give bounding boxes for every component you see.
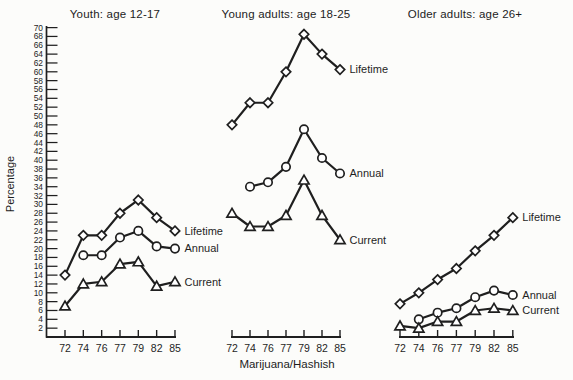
diamond-marker: [60, 270, 69, 279]
y-tick-label: 38: [34, 164, 44, 174]
y-tick-label: 28: [34, 208, 44, 218]
y-tick-label: 32: [34, 191, 44, 201]
y-tick-label: 10: [34, 288, 44, 298]
circle-marker: [79, 251, 87, 259]
diamond-marker: [79, 231, 88, 240]
series-label-lifetime: Lifetime: [184, 225, 223, 237]
triangle-marker: [317, 211, 327, 220]
diamond-marker: [281, 67, 290, 76]
triangle-marker: [227, 208, 237, 217]
y-tick-label: 4: [38, 314, 43, 324]
series-line-lifetime: [232, 34, 340, 125]
y-tick-label: 12: [34, 279, 44, 289]
prevalence-trend-figure: Percentage Youth: age 12-17 Young adults…: [0, 0, 573, 380]
x-tick-label: 77: [280, 342, 292, 354]
circle-marker: [282, 163, 290, 171]
series-label-lifetime: Lifetime: [522, 211, 561, 223]
circle-marker: [134, 227, 142, 235]
circle-marker: [300, 125, 308, 133]
x-tick-label: 77: [114, 342, 126, 354]
circle-marker: [336, 169, 344, 177]
series-label-annual: Annual: [350, 167, 384, 179]
y-tick-label: 40: [34, 155, 44, 165]
circle-marker: [471, 293, 479, 301]
circle-marker: [116, 233, 124, 241]
circle-marker: [171, 244, 179, 252]
triangle-marker: [299, 175, 309, 184]
y-tick-label: 44: [34, 138, 44, 148]
y-tick-label: 14: [34, 270, 44, 280]
y-tick-label: 2: [38, 323, 43, 333]
y-tick-label: 34: [34, 182, 44, 192]
circle-marker: [152, 242, 160, 250]
y-tick-label: 48: [34, 120, 44, 130]
x-tick-label: 72: [226, 342, 238, 354]
triangle-marker: [281, 211, 291, 220]
x-tick-label: 72: [394, 342, 406, 354]
series-label-current: Current: [350, 234, 387, 246]
x-tick-label: 82: [316, 342, 328, 354]
circle-marker: [509, 291, 517, 299]
series-label-current: Current: [184, 276, 221, 288]
series-label-current: Current: [522, 304, 559, 316]
y-tick-label: 64: [34, 49, 44, 59]
x-tick-label: 82: [151, 342, 163, 354]
x-tick-label: 85: [169, 342, 181, 354]
x-tick-label: 76: [262, 342, 274, 354]
circle-marker: [97, 251, 105, 259]
x-tick-label: 74: [77, 342, 89, 354]
y-tick-label: 22: [34, 235, 44, 245]
y-tick-label: 58: [34, 76, 44, 86]
circle-marker: [318, 154, 326, 162]
y-tick-label: 66: [34, 40, 44, 50]
circle-marker: [264, 178, 272, 186]
y-tick-label: 52: [34, 102, 44, 112]
y-tick-label: 26: [34, 217, 44, 227]
x-tick-label: 72: [59, 342, 71, 354]
x-tick-label: 76: [96, 342, 108, 354]
y-tick-label: 46: [34, 129, 44, 139]
y-tick-label: 60: [34, 67, 44, 77]
y-tick-label: 24: [34, 226, 44, 236]
chart-canvas: 2468101214161820222426283032343638404244…: [0, 0, 573, 380]
y-tick-label: 54: [34, 93, 44, 103]
x-axis-title: Marijuana/Hashish: [239, 358, 334, 370]
y-tick-label: 20: [34, 244, 44, 254]
x-tick-label: 74: [413, 342, 425, 354]
x-tick-label: 79: [132, 342, 144, 354]
x-tick-label: 76: [432, 342, 444, 354]
circle-marker: [246, 183, 254, 191]
y-tick-label: 36: [34, 173, 44, 183]
circle-marker: [490, 286, 498, 294]
series-label-lifetime: Lifetime: [350, 63, 389, 75]
circle-marker: [452, 304, 460, 312]
y-tick-label: 30: [34, 199, 44, 209]
diamond-marker: [263, 98, 272, 107]
y-tick-label: 42: [34, 146, 44, 156]
x-tick-label: 77: [451, 342, 463, 354]
y-tick-label: 18: [34, 252, 44, 262]
y-tick-label: 50: [34, 111, 44, 121]
x-tick-label: 79: [469, 342, 481, 354]
diamond-marker: [395, 299, 404, 308]
y-tick-label: 70: [34, 23, 44, 33]
x-tick-label: 79: [298, 342, 310, 354]
y-tick-label: 62: [34, 58, 44, 68]
y-tick-label: 68: [34, 31, 44, 41]
series-label-annual: Annual: [522, 289, 556, 301]
x-tick-label: 85: [334, 342, 346, 354]
y-tick-label: 6: [38, 305, 43, 315]
x-tick-label: 74: [244, 342, 256, 354]
y-tick-label: 16: [34, 261, 44, 271]
y-tick-label: 56: [34, 84, 44, 94]
triangle-marker: [170, 277, 180, 286]
series-label-annual: Annual: [184, 242, 218, 254]
x-tick-label: 85: [507, 342, 519, 354]
y-tick-label: 8: [38, 297, 43, 307]
x-tick-label: 82: [488, 342, 500, 354]
